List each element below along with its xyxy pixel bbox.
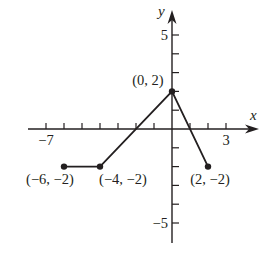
axes bbox=[28, 10, 259, 243]
closed-point-icon bbox=[61, 163, 67, 169]
x-axis-label: x bbox=[249, 107, 257, 123]
closed-point-icon bbox=[97, 163, 103, 169]
piecewise-graph: −735−5 (−6, −2)(−4, −2)(0, 2)(2, −2) x y bbox=[0, 0, 261, 254]
closed-point-icon bbox=[169, 88, 175, 94]
x-tick-label: −7 bbox=[38, 132, 53, 148]
point-label: (2, −2) bbox=[190, 171, 230, 188]
x-tick-label: 3 bbox=[222, 132, 229, 148]
closed-point-icon bbox=[205, 163, 211, 169]
y-tick-label: −5 bbox=[153, 215, 168, 231]
y-tick-label: 5 bbox=[161, 27, 168, 43]
y-axis-label: y bbox=[156, 3, 165, 19]
point-label: (−6, −2) bbox=[26, 171, 74, 188]
point-annotations: (−6, −2)(−4, −2)(0, 2)(2, −2) bbox=[26, 72, 230, 188]
point-label: (−4, −2) bbox=[99, 171, 147, 188]
point-label: (0, 2) bbox=[132, 72, 164, 89]
